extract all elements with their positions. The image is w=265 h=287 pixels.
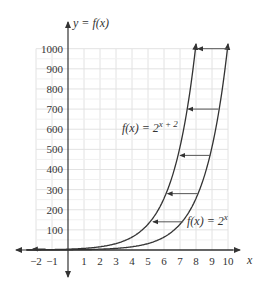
svg-text:7: 7 (177, 255, 183, 267)
svg-text:8: 8 (193, 255, 199, 267)
svg-text:6: 6 (161, 255, 167, 267)
svg-text:−2: −2 (30, 255, 42, 267)
svg-text:4: 4 (129, 255, 135, 267)
svg-text:500: 500 (47, 143, 64, 155)
svg-text:2: 2 (97, 255, 103, 267)
label-shifted-curve: f(x) = 2x + 2 (122, 119, 178, 135)
x-axis-label: x (246, 253, 253, 267)
svg-text:700: 700 (47, 103, 64, 115)
chart: −2−1123456789101002003004005006007008009… (0, 0, 265, 287)
svg-text:3: 3 (113, 255, 119, 267)
y-axis-label: y = f(x) (72, 16, 109, 30)
svg-text:600: 600 (47, 123, 64, 135)
label-base-curve: f(x) = 2x (187, 212, 228, 228)
svg-text:1000: 1000 (41, 43, 64, 55)
svg-text:1: 1 (81, 255, 87, 267)
svg-text:100: 100 (47, 224, 64, 236)
svg-text:9: 9 (209, 255, 215, 267)
svg-text:400: 400 (47, 163, 64, 175)
svg-text:10: 10 (223, 255, 235, 267)
svg-text:300: 300 (47, 184, 64, 196)
svg-text:900: 900 (47, 63, 64, 75)
svg-text:−1: −1 (46, 255, 58, 267)
svg-text:5: 5 (145, 255, 151, 267)
svg-text:800: 800 (47, 83, 64, 95)
svg-text:200: 200 (47, 204, 64, 216)
